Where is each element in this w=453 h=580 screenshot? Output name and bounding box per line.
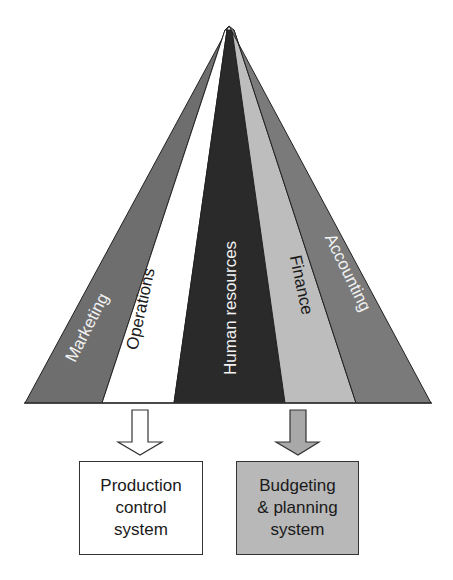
production-control-system-box: Production control system [79,461,203,555]
label-human-resources: Human resources [221,241,240,375]
arrow-down-icon-budgeting [276,410,319,455]
production-box-line-2: control [100,497,181,519]
fan-pyramid-diagram: Marketing Operations Human resources Fin… [0,0,453,580]
budgeting-box-line-3: system [257,519,337,541]
production-box-line-3: system [100,519,181,541]
production-box-line-1: Production [100,475,181,497]
budgeting-box-line-2: & planning [257,497,337,519]
budgeting-box-line-1: Budgeting [257,475,337,497]
budgeting-planning-system-box: Budgeting & planning system [236,461,359,555]
arrow-down-icon-production [118,410,162,455]
